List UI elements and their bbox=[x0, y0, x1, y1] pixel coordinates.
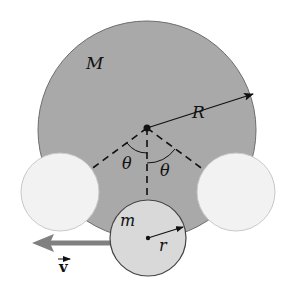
label-theta-right: θ bbox=[160, 161, 170, 180]
center-dot bbox=[144, 125, 151, 132]
label-R: R bbox=[191, 102, 205, 122]
label-m: m bbox=[120, 211, 135, 230]
physics-diagram: M R θ θ m r v bbox=[0, 0, 288, 297]
ghost-sphere-right bbox=[197, 153, 275, 231]
label-r: r bbox=[159, 236, 168, 255]
ghost-sphere-left bbox=[21, 153, 99, 231]
label-M: M bbox=[85, 53, 104, 73]
label-v: v bbox=[58, 258, 69, 276]
label-theta-left: θ bbox=[122, 154, 132, 173]
small-center-dot bbox=[146, 236, 150, 240]
